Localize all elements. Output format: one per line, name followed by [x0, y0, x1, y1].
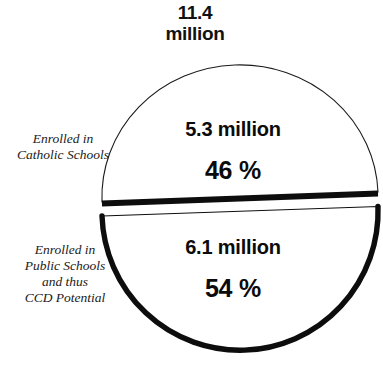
- callout-catholic-schools: Enrolled in Catholic Schools: [10, 131, 116, 163]
- callout-catholic-line-2: Catholic Schools: [10, 147, 116, 163]
- slice-label-catholic-amount: 5.3 million: [140, 118, 326, 141]
- callout-public-line-4: CCD Potential: [12, 290, 118, 306]
- slice-label-public-amount: 6.1 million: [140, 236, 326, 259]
- callout-catholic-line-1: Enrolled in: [10, 131, 116, 147]
- slice-label-catholic-percent: 46 %: [140, 156, 326, 185]
- callout-public-schools: Enrolled in Public Schools and thus CCD …: [12, 242, 118, 306]
- callout-public-line-2: Public Schools: [12, 258, 118, 274]
- callout-public-line-1: Enrolled in: [12, 242, 118, 258]
- slice-label-public-percent: 54 %: [140, 274, 326, 303]
- pie-chart-figure: 11.4 million 5.3 million 46 % 6.1 millio…: [0, 0, 383, 366]
- callout-public-line-3: and thus: [12, 274, 118, 290]
